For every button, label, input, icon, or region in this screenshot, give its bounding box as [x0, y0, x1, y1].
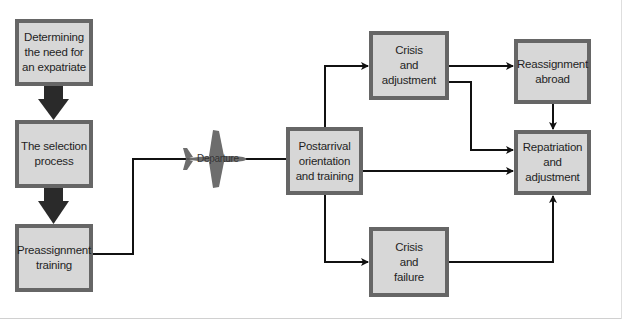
node-label: Postarrival orientation and training [296, 139, 354, 184]
thick-arrow-selection-to-preassignment [38, 188, 69, 224]
connector-preassignment-departure [93, 159, 286, 254]
node-label: Reassignment abroad [517, 57, 588, 87]
node-label: Preassignment training [17, 243, 91, 273]
node-label: Repatriation and adjustment [523, 140, 583, 185]
node-label: Crisis and failure [394, 240, 424, 285]
node-postarrival-orientation: Postarrival orientation and training [286, 127, 363, 195]
node-label: Determining the need for an expatriate [22, 30, 86, 75]
connector-crisis-adjustment-repatriation [449, 82, 513, 150]
node-crisis-failure: Crisis and failure [369, 227, 449, 297]
node-selection-process: The selection process [15, 120, 93, 188]
right-divider [621, 0, 622, 319]
connector-postarrival-crisis-adjustment [325, 66, 368, 127]
node-determining-need: Determining the need for an expatriate [15, 19, 93, 86]
node-label: The selection process [21, 139, 87, 169]
thick-arrow-need-to-selection [38, 86, 69, 120]
bottom-divider [0, 318, 622, 319]
departure-label: Departure [197, 153, 239, 164]
connector-crisis-failure-repatriation [449, 196, 553, 262]
node-preassignment-training: Preassignment training [15, 224, 93, 292]
node-repatriation-adjustment: Repatriation and adjustment [514, 130, 591, 195]
node-reassignment-abroad: Reassignment abroad [514, 39, 591, 104]
connector-postarrival-crisis-failure [325, 195, 368, 262]
node-crisis-adjustment: Crisis and adjustment [369, 31, 449, 100]
node-label: Crisis and adjustment [382, 43, 436, 88]
